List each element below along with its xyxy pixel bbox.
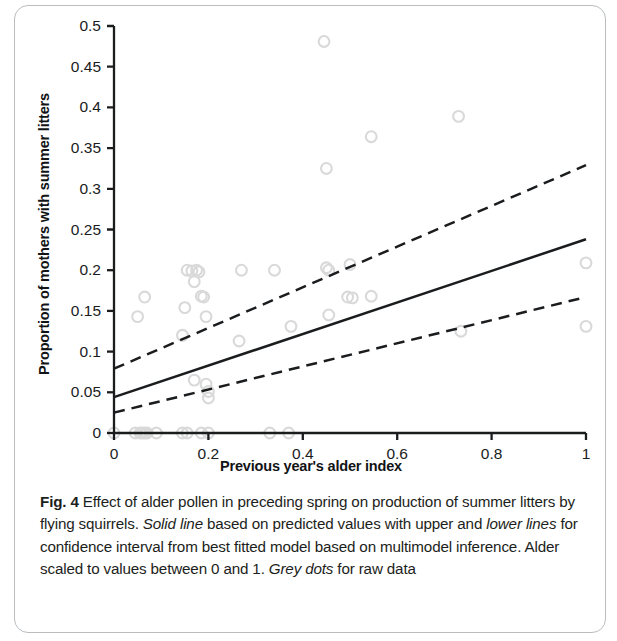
scatter-point — [323, 310, 334, 321]
figure-caption: Fig. 4 Effect of alder pollen in precedi… — [40, 491, 585, 580]
y-tick-label: 0.4 — [15, 98, 101, 116]
lower-confidence-line — [114, 297, 586, 413]
y-tick-label: 0.35 — [15, 139, 101, 157]
scatter-point — [203, 393, 214, 404]
scatter-point — [132, 311, 143, 322]
scatter-point — [201, 311, 212, 322]
x-tick-label: 0 — [110, 445, 119, 463]
y-tick-label: 0.25 — [15, 221, 101, 239]
chart-plot-region: Proportion of mothers with summer litter… — [15, 6, 606, 486]
y-tick-label: 0.45 — [15, 58, 101, 76]
y-tick-label: 0.15 — [15, 302, 101, 320]
x-tick-label: 0.8 — [481, 445, 503, 463]
scatter-point — [581, 257, 592, 268]
x-tick-label: 1 — [582, 445, 591, 463]
x-tick-label: 0.4 — [292, 445, 314, 463]
chart-svg — [15, 6, 606, 486]
scatter-point — [453, 111, 464, 122]
x-tick-label: 0.2 — [198, 445, 220, 463]
y-tick-label: 0.05 — [15, 383, 101, 401]
y-tick-label: 0.3 — [15, 180, 101, 198]
y-tick-label: 0.1 — [15, 343, 101, 361]
caption-segment-4: lower lines — [486, 515, 556, 532]
caption-segment-3: based on predicted values with upper and — [203, 515, 486, 532]
scatter-point — [269, 265, 280, 276]
scatter-point — [366, 291, 377, 302]
fitted-solid-line — [114, 239, 586, 397]
caption-segment-6: Grey dots — [269, 560, 334, 577]
caption-segment-2: Solid line — [143, 515, 203, 532]
scatter-point — [321, 163, 332, 174]
scatter-point — [234, 336, 245, 347]
scatter-point — [139, 292, 150, 303]
upper-confidence-line — [114, 165, 586, 369]
scatter-point — [179, 302, 190, 313]
x-tick-label: 0.6 — [386, 445, 408, 463]
y-tick-label: 0.2 — [15, 261, 101, 279]
scatter-points-group — [109, 36, 592, 438]
y-tick-label: 0 — [15, 424, 101, 442]
scatter-point — [286, 321, 297, 332]
scatter-point — [189, 375, 200, 386]
scatter-point — [581, 321, 592, 332]
y-tick-label: 0.5 — [15, 17, 101, 35]
caption-segment-0: Fig. 4 — [40, 493, 79, 510]
scatter-point — [366, 131, 377, 142]
caption-segment-7: for raw data — [333, 560, 415, 577]
scatter-point — [319, 36, 330, 47]
scatter-point — [236, 265, 247, 276]
figure-card: Proportion of mothers with summer litter… — [14, 5, 606, 633]
